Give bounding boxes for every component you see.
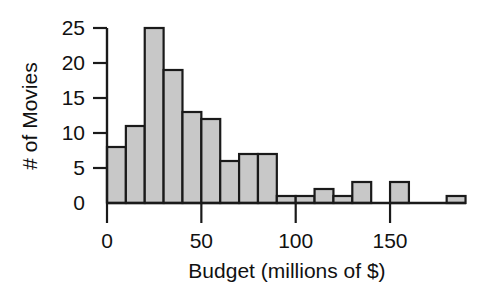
histogram-bar [315,189,334,203]
chart-canvas: 0510152025 050100150 # of Movies Budget … [0,0,490,291]
histogram-bar [258,154,277,203]
y-axis-title: # of Movies [18,62,41,169]
x-tick-label: 100 [278,229,313,252]
histogram-bar [107,147,126,203]
y-tick-label: 15 [62,86,85,109]
histogram-bar [145,28,164,203]
histogram-bar [239,154,258,203]
histogram-bar [126,126,145,203]
histogram-bar [182,112,201,203]
x-axis-title: Budget (millions of $) [188,259,385,282]
x-tick-label: 0 [101,229,113,252]
histogram-figure: 0510152025 050100150 # of Movies Budget … [0,0,490,291]
y-tick-label: 10 [62,121,85,144]
y-tick-label: 5 [73,156,85,179]
histogram-bar [390,182,409,203]
y-tick-label: 20 [62,51,85,74]
y-tick-label: 0 [73,191,85,214]
histogram-bar [220,161,239,203]
y-tick-label: 25 [62,16,85,39]
x-tick-label: 50 [190,229,213,252]
chart-background [0,0,490,291]
histogram-bar [164,70,183,203]
x-tick-label: 150 [373,229,408,252]
histogram-bar [201,119,220,203]
histogram-bar [352,182,371,203]
